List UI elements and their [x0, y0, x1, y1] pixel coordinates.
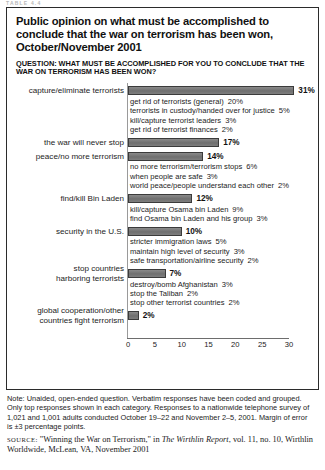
- subitem: get rid of terrorist finances2%: [130, 125, 233, 134]
- bar-value-label: 12%: [196, 194, 212, 203]
- subitem-label: world peace/people understand each other: [130, 181, 274, 190]
- subitem-label: stricter immigration laws: [130, 237, 211, 246]
- chart-row: capture/eliminate terrorists31%get rid o…: [7, 86, 319, 134]
- survey-question: QUESTION: WHAT MUST BE ACCOMPLISHED FOR …: [16, 60, 309, 78]
- subitem-label: get rid of terrorist finances: [130, 125, 218, 134]
- subitem: stop the Taliban2%: [130, 289, 198, 298]
- bar: [128, 86, 294, 95]
- source-title: "Winning the War on Terrorism,": [40, 435, 151, 444]
- subitem-label: maintain high level of security: [130, 247, 230, 256]
- subitem-value: 3%: [256, 214, 267, 223]
- bar-value-label: 31%: [298, 86, 314, 95]
- x-tick: 25: [258, 340, 266, 349]
- subitem-label: safe transportation/airline security: [130, 256, 244, 265]
- subitem: kill/capture Osama bin Laden9%: [130, 205, 243, 214]
- running-head: TABLE 4.4: [6, 0, 41, 6]
- subitem: terrorists in custody/handed over for ju…: [130, 106, 290, 115]
- page-title: Public opinion on what must be accomplis…: [16, 15, 309, 55]
- category-label: peace/no more terrorism: [6, 152, 124, 161]
- bar-value-label: 14%: [207, 152, 223, 161]
- subitem-value: 3%: [207, 172, 218, 181]
- subitem-value: 2%: [229, 298, 240, 307]
- chart-row: security in the U.S.10%stricter immigrat…: [7, 227, 319, 266]
- chart-row: global cooperation/other countries fight…: [7, 311, 319, 329]
- subitem: kill/capture terrorist leaders3%: [130, 116, 236, 125]
- x-tick: 5: [153, 340, 157, 349]
- subitem-label: stop other terrorist countries: [130, 298, 225, 307]
- subitem: when people are safe3%: [130, 172, 218, 181]
- chart-row: stop countries harboring terrorists7%des…: [7, 269, 319, 308]
- subitem: find Osama bin Laden and his group3%: [130, 214, 267, 223]
- subitem-value: 2%: [248, 256, 259, 265]
- subitem-value: 5%: [279, 106, 290, 115]
- x-tick: 30: [285, 340, 293, 349]
- subitem-value: 3%: [222, 280, 233, 289]
- subitem-value: 3%: [225, 116, 236, 125]
- x-tick: 10: [177, 340, 185, 349]
- bar-value-label: 2%: [143, 311, 155, 320]
- source-connector: in: [151, 435, 162, 444]
- subitem-label: terrorists in custody/handed over for ju…: [130, 106, 275, 115]
- bar-value-label: 10%: [186, 227, 202, 236]
- figure-box: Public opinion on what must be accomplis…: [6, 7, 319, 390]
- subitem-label: kill/capture Osama bin Laden: [130, 205, 228, 214]
- subitem-label: kill/capture terrorist leaders: [130, 116, 221, 125]
- x-tick: 20: [231, 340, 239, 349]
- bar: [128, 152, 203, 161]
- x-tick: 15: [204, 340, 212, 349]
- subitem: get rid of terrorists (general)20%: [130, 97, 243, 106]
- subitem-value: 3%: [234, 247, 245, 256]
- subitem-label: find Osama bin Laden and his group: [130, 214, 252, 223]
- figure-note: Note: Unaided, open-ended question. Verb…: [7, 394, 313, 431]
- subitem: maintain high level of security3%: [130, 247, 245, 256]
- chart-plot-area: 051015202530 capture/eliminate terrorist…: [7, 83, 318, 351]
- chart-row: find/kill Bin Laden12%kill/capture Osama…: [7, 194, 319, 223]
- bar-value-label: 17%: [223, 138, 239, 147]
- note-text: Unaided, open-ended question. Verbatim r…: [7, 394, 309, 431]
- subitem: destroy/bomb Afghanistan3%: [130, 280, 233, 289]
- chart-row: peace/no more terrorism14%no more terror…: [7, 152, 319, 191]
- subitem: world peace/people understand each other…: [130, 181, 289, 190]
- subitem: no more terrorism/terrorism stops6%: [130, 162, 257, 171]
- subitem-value: 9%: [232, 205, 243, 214]
- subitem: stop other terrorist countries2%: [130, 298, 240, 307]
- x-axis-ticks: 051015202530: [7, 340, 319, 352]
- subitem: stricter immigration laws5%: [130, 237, 226, 246]
- note-label: Note:: [7, 394, 25, 403]
- category-label: the war will never stop: [6, 138, 124, 147]
- figure-page: TABLE 4.4 Public opinion on what must be…: [0, 0, 325, 470]
- subitem-label: get rid of terrorists (general): [130, 97, 224, 106]
- source-label: SOURCE:: [7, 436, 38, 443]
- category-label: capture/eliminate terrorists: [6, 86, 124, 95]
- subitem-value: 2%: [278, 181, 289, 190]
- category-label: global cooperation/other countries fight…: [6, 306, 124, 325]
- source-publication: The Wirthlin Report: [162, 435, 229, 444]
- bar: [128, 227, 182, 236]
- figure-source: SOURCE: "Winning the War on Terrorism," …: [7, 435, 315, 456]
- x-tick: 0: [126, 340, 130, 349]
- subitem-value: 2%: [222, 125, 233, 134]
- subitem-value: 20%: [228, 97, 243, 106]
- bar: [128, 138, 219, 147]
- subitem-value: 6%: [246, 162, 257, 171]
- category-label: stop countries harboring terrorists: [6, 264, 124, 283]
- subitem-value: 5%: [215, 237, 226, 246]
- bar: [128, 311, 139, 320]
- subitem-label: no more terrorism/terrorism stops: [130, 162, 242, 171]
- chart-row: the war will never stop17%: [7, 138, 319, 149]
- subitem-value: 2%: [187, 289, 198, 298]
- bar: [128, 194, 192, 203]
- subitem-label: stop the Taliban: [130, 289, 183, 298]
- category-label: find/kill Bin Laden: [6, 194, 124, 203]
- bar-value-label: 7%: [170, 269, 182, 278]
- category-label: security in the U.S.: [6, 227, 124, 236]
- subitem-label: when people are safe: [130, 172, 203, 181]
- subitem-label: destroy/bomb Afghanistan: [130, 280, 218, 289]
- x-axis-line: [127, 338, 289, 339]
- subitem: safe transportation/airline security2%: [130, 256, 259, 265]
- bar: [128, 269, 166, 278]
